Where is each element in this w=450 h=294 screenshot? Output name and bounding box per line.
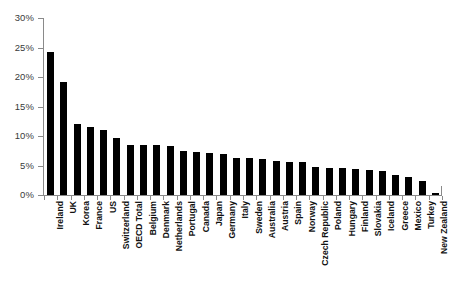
- y-axis-tick-label: 0%: [20, 190, 34, 200]
- x-axis-tick-mark: [376, 196, 377, 200]
- y-axis: 0%5%10%15%20%25%30%: [0, 0, 40, 294]
- x-axis-tick-mark: [415, 196, 416, 200]
- bar[interactable]: [339, 168, 346, 195]
- x-axis-category-label: Sweden: [254, 201, 265, 234]
- x-axis-category-label: Germany: [227, 201, 238, 239]
- bar[interactable]: [405, 177, 412, 195]
- y-axis-tick-label: 30%: [15, 13, 34, 23]
- x-axis-category-label: US: [108, 201, 119, 213]
- x-axis-category-label: Finland: [360, 201, 371, 232]
- bar[interactable]: [100, 130, 107, 195]
- x-axis-category-label: France: [94, 201, 105, 229]
- x-axis-category-label: OECD Total: [134, 201, 145, 249]
- y-axis-tick-mark: [38, 77, 44, 78]
- bar[interactable]: [180, 151, 187, 195]
- bar[interactable]: [127, 145, 134, 195]
- x-axis-category-label: Australia: [267, 201, 278, 238]
- x-axis-tick-mark: [44, 196, 45, 200]
- bar-slot: [203, 18, 216, 195]
- bar[interactable]: [326, 168, 333, 195]
- bar[interactable]: [259, 159, 266, 195]
- bar-slot: [349, 18, 362, 195]
- x-axis-category-label: Austria: [280, 201, 291, 231]
- bar-slot: [163, 18, 176, 195]
- x-axis-category-label: Belgium: [148, 201, 159, 235]
- bar-slot: [230, 18, 243, 195]
- y-axis-tick-label: 10%: [15, 131, 34, 141]
- bar[interactable]: [87, 127, 94, 195]
- y-axis-tick-mark: [38, 166, 44, 167]
- x-axis-tick-mark: [216, 196, 217, 200]
- bar[interactable]: [233, 158, 240, 195]
- bar-slot: [44, 18, 57, 195]
- x-axis-category-label: Ireland: [55, 201, 66, 230]
- bar[interactable]: [366, 170, 373, 195]
- x-axis-tick-mark: [402, 196, 403, 200]
- bar-slot: [110, 18, 123, 195]
- x-axis-category-label: New Zealand: [439, 201, 450, 254]
- bar[interactable]: [220, 154, 227, 195]
- bar-slot: [97, 18, 110, 195]
- bar[interactable]: [286, 162, 293, 195]
- x-axis-category-label: Czech Republic: [320, 201, 331, 266]
- bar[interactable]: [140, 145, 147, 195]
- x-axis-category-label: Slovakia: [373, 201, 384, 236]
- bar-slot: [415, 18, 428, 195]
- y-axis-tick-mark: [38, 48, 44, 49]
- bar[interactable]: [60, 82, 67, 195]
- x-axis-category-label: Mexico: [413, 201, 424, 230]
- x-axis-tick-mark: [190, 196, 191, 200]
- x-axis-tick-mark: [84, 196, 85, 200]
- x-axis-tick-mark: [336, 196, 337, 200]
- bar[interactable]: [246, 158, 253, 195]
- x-axis-category-label: Iceland: [386, 201, 397, 231]
- bar-slot: [124, 18, 137, 195]
- bar[interactable]: [167, 146, 174, 195]
- x-axis-category-label: Spain: [293, 201, 304, 225]
- x-axis-tick-mark: [323, 196, 324, 200]
- bar[interactable]: [74, 124, 81, 195]
- bar[interactable]: [392, 175, 399, 195]
- x-axis-tick-mark: [177, 196, 178, 200]
- bar[interactable]: [299, 162, 306, 195]
- x-axis-tick-mark: [243, 196, 244, 200]
- bar-slot: [256, 18, 269, 195]
- bar[interactable]: [352, 169, 359, 195]
- bar[interactable]: [273, 161, 280, 195]
- x-axis-tick-mark: [270, 196, 271, 200]
- x-axis-category-label: Poland: [333, 201, 344, 230]
- bar[interactable]: [206, 153, 213, 195]
- bar[interactable]: [193, 152, 200, 195]
- bar[interactable]: [47, 52, 54, 195]
- bar-slot: [283, 18, 296, 195]
- bar-slot: [309, 18, 322, 195]
- bar[interactable]: [153, 145, 160, 195]
- bar[interactable]: [419, 181, 426, 195]
- plot-right-border: [441, 186, 442, 196]
- x-axis-tick-mark: [429, 196, 430, 200]
- x-axis-tick-mark: [349, 196, 350, 200]
- bar-slot: [323, 18, 336, 195]
- bar[interactable]: [379, 171, 386, 195]
- x-axis-tick-mark: [110, 196, 111, 200]
- x-axis-category-label: Japan: [214, 201, 225, 226]
- x-axis-category-label: Canada: [201, 201, 212, 232]
- x-axis-tick-mark: [163, 196, 164, 200]
- bar-slot: [57, 18, 70, 195]
- x-axis-tick-mark: [203, 196, 204, 200]
- bar-slot: [243, 18, 256, 195]
- x-axis-category-label: Hungary: [347, 201, 358, 236]
- y-axis-tick-label: 5%: [20, 161, 34, 171]
- x-axis-category-label: Norway: [307, 201, 318, 232]
- bar-slot: [429, 18, 442, 195]
- x-axis-tick-mark: [389, 196, 390, 200]
- x-axis-category-label: Italy: [240, 201, 251, 218]
- x-axis-tick-mark: [256, 196, 257, 200]
- bar[interactable]: [312, 167, 319, 195]
- x-axis-category-label: Denmark: [161, 201, 172, 238]
- bar-slot: [296, 18, 309, 195]
- x-axis-tick-mark: [57, 196, 58, 200]
- bar[interactable]: [113, 138, 120, 195]
- bar-slot: [216, 18, 229, 195]
